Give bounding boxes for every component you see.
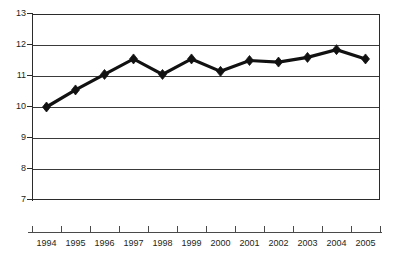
data-point-marker — [362, 54, 370, 64]
y-axis-tick — [27, 75, 33, 76]
data-point-marker — [159, 69, 167, 79]
series-line — [47, 50, 366, 107]
data-point-marker — [333, 45, 341, 55]
y-axis-tick — [27, 106, 33, 107]
data-point-marker — [188, 54, 196, 64]
data-point-marker — [246, 56, 254, 66]
data-point-marker — [101, 69, 109, 79]
y-axis-tick — [27, 199, 33, 200]
data-point-marker — [217, 66, 225, 76]
data-point-marker — [304, 52, 312, 62]
data-point-marker — [275, 57, 283, 67]
y-axis-tick — [27, 168, 33, 169]
y-axis-tick — [27, 13, 33, 14]
data-series — [0, 0, 399, 262]
line-chart: 78910111213 1994199519961997199819992000… — [0, 0, 399, 262]
y-axis-tick — [27, 44, 33, 45]
data-point-marker — [130, 54, 138, 64]
y-axis-tick — [27, 137, 33, 138]
